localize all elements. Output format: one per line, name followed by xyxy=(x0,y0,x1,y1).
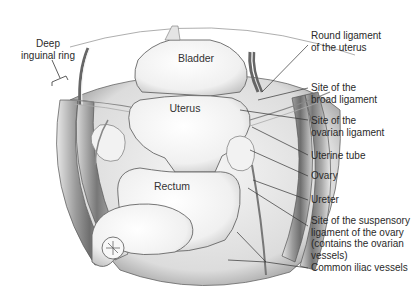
broad-ligament-line2: broad ligament xyxy=(311,94,377,106)
common-iliac-label: Common iliac vessels xyxy=(311,262,408,274)
bladder-label: Bladder xyxy=(166,52,226,64)
suspensory-ligament-label: Site of the suspensory ligament of the o… xyxy=(311,215,410,261)
deep-inguinal-ring-line1: Deep xyxy=(8,38,88,50)
ovarian-ligament-line2: ovarian ligament xyxy=(311,127,384,139)
pelvic-anatomy-diagram: Bladder Uterus Rectum Deep inguinal ring… xyxy=(0,0,420,299)
suspensory-ligament-line1: Site of the suspensory xyxy=(311,215,410,227)
round-ligament-line1: Round ligament xyxy=(311,30,381,42)
ovarian-ligament-label: Site of the ovarian ligament xyxy=(311,115,384,138)
ovary-label: Ovary xyxy=(311,170,338,182)
deep-inguinal-ring-leader xyxy=(52,60,68,86)
uterine-tube-label: Uterine tube xyxy=(311,150,365,162)
broad-ligament-line1: Site of the xyxy=(311,82,377,94)
ureter-line1: Ureter xyxy=(311,194,339,206)
uterine-tube-line1: Uterine tube xyxy=(311,150,365,162)
ovary-line1: Ovary xyxy=(311,170,338,182)
deep-inguinal-ring-label: Deep inguinal ring xyxy=(8,38,88,61)
round-ligament-label: Round ligament of the uterus xyxy=(311,30,381,53)
uterus-label: Uterus xyxy=(155,102,215,114)
suspensory-ligament-line4: vessels) xyxy=(311,250,410,262)
suspensory-ligament-line2: ligament of the ovary xyxy=(311,227,410,239)
rectum-label: Rectum xyxy=(142,180,202,192)
right-ovary xyxy=(226,136,254,171)
ureter-label: Ureter xyxy=(311,194,339,206)
broad-ligament-label: Site of the broad ligament xyxy=(311,82,377,105)
round-ligament-line2: of the uterus xyxy=(311,42,381,54)
deep-inguinal-ring-line2: inguinal ring xyxy=(8,50,88,62)
ovarian-ligament-line1: Site of the xyxy=(311,115,384,127)
common-iliac-line1: Common iliac vessels xyxy=(311,262,408,274)
suspensory-ligament-line3: (contains the ovarian xyxy=(311,238,410,250)
